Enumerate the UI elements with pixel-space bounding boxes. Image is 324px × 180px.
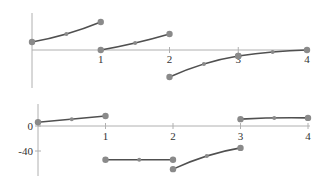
data-point bbox=[237, 145, 243, 151]
data-point bbox=[64, 32, 68, 36]
data-point bbox=[137, 158, 141, 162]
x-tick-label: 2 bbox=[167, 53, 173, 65]
data-point bbox=[102, 157, 108, 163]
x-tick-label: 4 bbox=[305, 130, 311, 142]
x-tick-label: 2 bbox=[170, 130, 176, 142]
bottom-chart: 12340-40 bbox=[0, 90, 324, 180]
data-point bbox=[304, 47, 310, 53]
y-tick-label: -40 bbox=[18, 145, 33, 157]
data-point bbox=[202, 62, 206, 66]
chart-stage: 1234 12340-40 bbox=[0, 0, 324, 180]
data-point bbox=[205, 154, 209, 158]
x-tick-label: 4 bbox=[304, 53, 310, 65]
data-point bbox=[271, 50, 275, 54]
data-point bbox=[35, 119, 41, 125]
segment-3-curve bbox=[170, 56, 239, 77]
data-point bbox=[170, 166, 176, 172]
segment-3-curve bbox=[173, 148, 241, 169]
y-tick-label: 0 bbox=[28, 120, 34, 132]
top-chart: 1234 bbox=[0, 0, 324, 90]
data-point bbox=[237, 116, 243, 122]
data-point bbox=[98, 47, 104, 53]
x-tick-label: 3 bbox=[238, 130, 244, 142]
data-point bbox=[305, 115, 311, 121]
data-point bbox=[98, 19, 104, 25]
data-point bbox=[235, 53, 241, 59]
data-point bbox=[166, 31, 172, 37]
data-point bbox=[272, 116, 276, 120]
bottom-series bbox=[35, 113, 311, 173]
data-point bbox=[102, 113, 108, 119]
x-tick-label: 1 bbox=[98, 53, 104, 65]
data-point bbox=[70, 117, 74, 121]
data-point bbox=[29, 39, 35, 45]
data-point bbox=[133, 41, 137, 45]
data-point bbox=[166, 74, 172, 80]
data-point bbox=[170, 157, 176, 163]
x-tick-label: 1 bbox=[103, 130, 109, 142]
